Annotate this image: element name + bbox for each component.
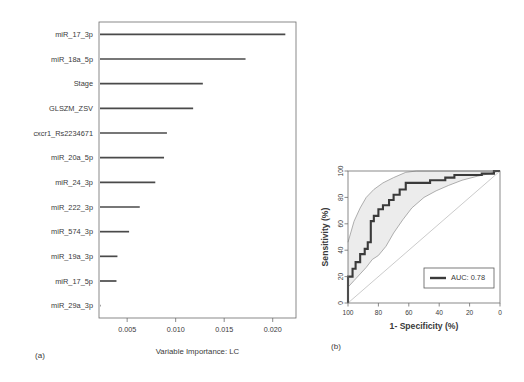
roc-x-axis-title: 1- Specificity (%) (390, 321, 459, 331)
category-label-mir-222-3p: miR_222_3p (51, 203, 93, 212)
category-label-cxcr1-rs2234671: cxcr1_Rs2234671 (33, 129, 93, 138)
roc-x-tick-label: 40 (436, 309, 444, 316)
panel-a-variable-importance: miR_17_3pmiR_18a_5pStageGLSZM_ZSVcxcr1_R… (0, 0, 312, 382)
panel-b-roc-curve: 100806040200 020406080100 1- Specificity… (312, 150, 524, 382)
roc-y-tick-label: 40 (337, 246, 344, 254)
category-label-group: miR_17_3pmiR_18a_5pStageGLSZM_ZSVcxcr1_R… (33, 30, 93, 310)
x-tick-label: 0.020 (264, 325, 282, 334)
plot-frame (99, 22, 296, 318)
roc-x-tick-label: 80 (375, 309, 383, 316)
category-label-mir-19a-3p: miR_19a_3p (51, 252, 93, 261)
category-label-mir-29a-3p: miR_29a_3p (51, 301, 93, 310)
roc-y-tick-label: 100 (337, 165, 344, 176)
bar-group (100, 34, 285, 305)
roc-y-axis-title: Sensitivity (%) (320, 207, 330, 266)
roc-y-tick-label: 20 (337, 273, 344, 281)
x-tick-label: 0.010 (167, 325, 185, 334)
x-axis-tick-group: 0.0050.0100.0150.020 (118, 318, 282, 334)
roc-y-tick-label: 0 (337, 301, 344, 305)
roc-legend: AUC: 0.78 (424, 268, 494, 288)
category-label-mir-24-3p: miR_24_3p (55, 178, 93, 187)
category-label-mir-574-3p: miR_574_3p (51, 227, 93, 236)
category-label-stage: Stage (74, 79, 93, 88)
auc-legend-label: AUC: 0.78 (451, 273, 485, 282)
category-label-mir-18a-5p: miR_18a_5p (51, 55, 93, 64)
roc-x-axis-ticks: 100806040200 (342, 303, 502, 316)
category-label-glszm-zsv: GLSZM_ZSV (49, 104, 93, 113)
x-tick-label: 0.005 (118, 325, 136, 334)
roc-y-tick-label: 80 (337, 193, 344, 201)
roc-x-tick-label: 0 (498, 309, 502, 316)
panel-b-label: (b) (331, 342, 341, 351)
category-label-mir-17-5p: miR_17_5p (55, 277, 93, 286)
variable-importance-chart: miR_17_3pmiR_18a_5pStageGLSZM_ZSVcxcr1_R… (0, 0, 312, 382)
roc-x-tick-label: 60 (405, 309, 413, 316)
roc-y-tick-label: 60 (337, 220, 344, 228)
roc-x-tick-label: 100 (342, 309, 353, 316)
roc-y-axis-ticks: 020406080100 (337, 165, 348, 305)
roc-x-tick-label: 20 (466, 309, 474, 316)
x-axis-title: Variable Importance: LC (156, 347, 240, 356)
x-tick-label: 0.015 (215, 325, 233, 334)
category-label-mir-20a-5p: miR_20a_5p (51, 153, 93, 162)
category-label-mir-17-3p: miR_17_3p (55, 30, 93, 39)
roc-chart: 100806040200 020406080100 1- Specificity… (312, 150, 524, 382)
panel-a-label: (a) (35, 351, 45, 360)
figure-container: miR_17_3pmiR_18a_5pStageGLSZM_ZSVcxcr1_R… (0, 0, 524, 382)
